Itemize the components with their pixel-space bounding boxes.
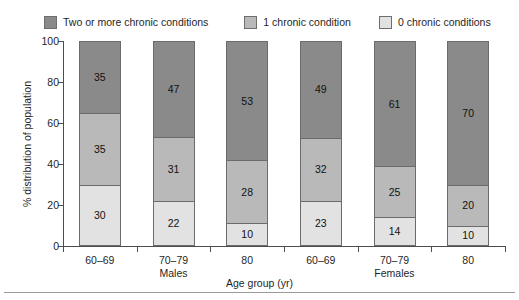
- x-category-label: 60–69: [281, 254, 361, 266]
- segment-two-or-more[interactable]: 47: [153, 41, 195, 137]
- chart-legend: Two or more chronic conditions 1 chronic…: [44, 13, 504, 31]
- y-tick-label: 60: [47, 117, 59, 129]
- segment-value-label: 53: [241, 96, 253, 107]
- segment-two-or-more[interactable]: 49: [300, 41, 342, 138]
- segment-value-label: 47: [168, 84, 180, 95]
- x-tick-mark: [505, 246, 506, 252]
- y-axis-title: % distribution of population: [21, 80, 33, 206]
- y-tick-label: 0: [53, 240, 59, 252]
- segment-value-label: 22: [168, 218, 180, 229]
- x-tick-mark: [137, 246, 138, 252]
- x-tick-mark: [431, 246, 432, 252]
- segment-value-label: 49: [315, 84, 327, 95]
- segment-one-condition[interactable]: 25: [374, 166, 416, 217]
- segment-value-label: 35: [94, 144, 106, 155]
- legend-item-two-or-more: Two or more chronic conditions: [44, 13, 208, 31]
- segment-value-label: 10: [462, 230, 474, 241]
- segment-zero-conditions[interactable]: 10: [226, 223, 268, 246]
- y-tick-label: 20: [47, 199, 59, 211]
- chart-figure: Two or more chronic conditions 1 chronic…: [0, 0, 519, 300]
- legend-label-one-condition: 1 chronic condition: [263, 16, 351, 28]
- x-tick-mark: [63, 246, 64, 252]
- segment-zero-conditions[interactable]: 14: [374, 217, 416, 246]
- x-tick-mark: [358, 246, 359, 252]
- segment-zero-conditions[interactable]: 23: [300, 201, 342, 246]
- segment-value-label: 30: [94, 210, 106, 221]
- y-tick-label: 100: [41, 35, 59, 47]
- legend-label-zero-conditions: 0 chronic conditions: [398, 16, 491, 28]
- y-tick-label: 80: [47, 76, 59, 88]
- segment-zero-conditions[interactable]: 10: [447, 226, 489, 247]
- segment-two-or-more[interactable]: 70: [447, 41, 489, 185]
- segment-one-condition[interactable]: 32: [300, 138, 342, 201]
- legend-label-two-or-more: Two or more chronic conditions: [63, 16, 208, 28]
- legend-swatch-zero-conditions: [379, 16, 392, 29]
- x-category-label: 70–79: [355, 254, 435, 266]
- x-category-label: 80: [428, 254, 508, 266]
- segment-zero-conditions[interactable]: 30: [79, 185, 121, 247]
- segment-two-or-more[interactable]: 35: [79, 41, 121, 113]
- segment-one-condition[interactable]: 28: [226, 160, 268, 223]
- y-tick-label: 40: [47, 158, 59, 170]
- x-category-label: 60–69: [60, 254, 140, 266]
- footer-divider: [4, 292, 515, 293]
- x-tick-mark: [284, 246, 285, 252]
- segment-two-or-more[interactable]: 61: [374, 41, 416, 166]
- legend-swatch-one-condition: [244, 16, 257, 29]
- legend-swatch-two-or-more: [44, 16, 57, 29]
- segment-one-condition[interactable]: 20: [447, 185, 489, 226]
- segment-value-label: 20: [462, 200, 474, 211]
- segment-value-label: 31: [168, 164, 180, 175]
- x-category-label: 70–79: [134, 254, 214, 266]
- plot-area: % distribution of population 02040608010…: [63, 41, 505, 246]
- stacked-bar[interactable]: 142561: [374, 41, 416, 246]
- segment-value-label: 23: [315, 218, 327, 229]
- legend-item-zero-conditions: 0 chronic conditions: [379, 13, 491, 31]
- legend-item-one-condition: 1 chronic condition: [244, 13, 351, 31]
- stacked-bar[interactable]: 303535: [79, 41, 121, 246]
- x-tick-mark: [210, 246, 211, 252]
- stacked-bar[interactable]: 102853: [226, 41, 268, 246]
- stacked-bar[interactable]: 102070: [447, 41, 489, 246]
- x-axis-title: Age group (yr): [0, 277, 519, 289]
- segment-value-label: 61: [389, 99, 401, 110]
- segment-value-label: 35: [94, 72, 106, 83]
- segment-value-label: 28: [241, 187, 253, 198]
- segment-zero-conditions[interactable]: 22: [153, 201, 195, 246]
- segment-value-label: 10: [241, 229, 253, 240]
- stacked-bar[interactable]: 233249: [300, 41, 342, 246]
- segment-value-label: 32: [315, 164, 327, 175]
- x-category-label: 80: [207, 254, 287, 266]
- segment-one-condition[interactable]: 35: [79, 113, 121, 185]
- segment-two-or-more[interactable]: 53: [226, 41, 268, 160]
- segment-value-label: 14: [389, 226, 401, 237]
- segment-value-label: 70: [462, 108, 474, 119]
- segment-value-label: 25: [389, 187, 401, 198]
- stacked-bar[interactable]: 223147: [153, 41, 195, 246]
- segment-one-condition[interactable]: 31: [153, 137, 195, 201]
